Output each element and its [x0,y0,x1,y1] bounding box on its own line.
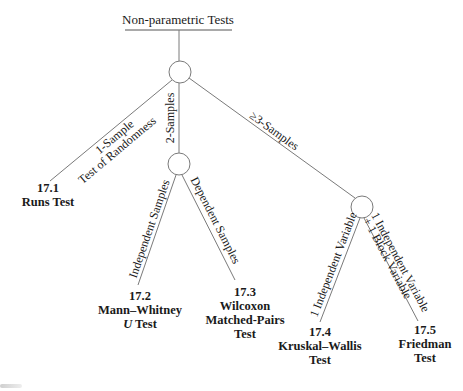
leaf-title-line2: Test [385,351,463,365]
leaf-title: Runs Test [18,195,78,209]
edge-three-samples [189,78,355,198]
leaf-kruskal-wallis: 17.4 Kruskal–Wallis Test [265,325,375,367]
edge-label-dependent-samples: Dependent Samples [188,174,244,266]
leaf-title: Kruskal–Wallis [265,339,375,353]
edge-label-one-independent-variable: 1 Independent Variable [307,210,360,319]
leaf-title: Wilcoxon [195,299,295,313]
leaf-runs-test: 17.1 Runs Test [18,181,78,209]
leaf-title-line2-rest: Test [132,317,157,331]
leaf-number: 17.4 [265,325,375,339]
leaf-title: Friedman [385,337,463,351]
leaf-number: 17.3 [195,285,295,299]
leaf-number: 17.5 [385,323,463,337]
leaf-title-line2: Test [265,353,375,367]
u-symbol: U [123,317,132,331]
leaf-friedman: 17.5 Friedman Test [385,323,463,365]
leaf-title: Mann–Whitney [90,303,190,317]
two-samples-node [168,153,190,175]
edge-label-independent-samples: Independent Samples [126,177,173,279]
corner-scroll-mark [0,384,22,388]
root-node [169,61,191,83]
edge-label-three-samples: ≥3-Samples [247,108,302,153]
leaf-mann-whitney: 17.2 Mann–Whitney U Test [90,289,190,331]
leaf-number: 17.1 [18,181,78,195]
diagram-title: Non-parametric Tests [122,12,234,27]
leaf-title-line2: U Test [90,317,190,331]
edge-label-two-samples: 2-Samples [163,92,177,143]
leaf-number: 17.2 [90,289,190,303]
